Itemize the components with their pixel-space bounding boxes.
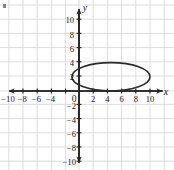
x-tick-label: 8 (134, 94, 138, 104)
y-tick-label: 8 (70, 30, 74, 40)
y-tick-label: 2 (70, 72, 74, 82)
x-tick-label: −10 (1, 94, 14, 104)
x-tick-labels: −10 −8 −6 −4 2 4 6 8 10 (1, 94, 154, 104)
x-tick-label: −6 (32, 94, 42, 104)
x-tick-label: 4 (105, 94, 110, 104)
y-tick-label: −2 (67, 101, 76, 111)
x-axis-label: x (163, 86, 169, 97)
ellipse-curve (72, 63, 150, 91)
scan-artifact-speck (3, 4, 6, 8)
y-axis-label: y (82, 2, 88, 13)
coordinate-plane-figure: x y 0 −10 −8 −6 −4 2 4 6 8 10 10 8 6 4 2… (0, 0, 174, 170)
x-tick-label: 2 (91, 94, 95, 104)
x-tick-label: 6 (119, 94, 124, 104)
x-tick-label: 10 (146, 94, 155, 104)
y-tick-label: 6 (70, 44, 75, 54)
y-tick-label: −10 (63, 157, 76, 167)
y-tick-label: 4 (70, 58, 75, 68)
x-tick-label: −4 (46, 94, 56, 104)
grid-lines (0, 0, 174, 170)
y-tick-label: 10 (65, 15, 74, 25)
y-tick-label: −4 (67, 115, 77, 125)
graph-svg: x y 0 −10 −8 −6 −4 2 4 6 8 10 10 8 6 4 2… (0, 0, 174, 170)
x-tick-label: −8 (18, 94, 27, 104)
y-tick-label: −8 (67, 143, 76, 153)
y-tick-label: −6 (67, 129, 77, 139)
ellipse-path (72, 63, 150, 91)
